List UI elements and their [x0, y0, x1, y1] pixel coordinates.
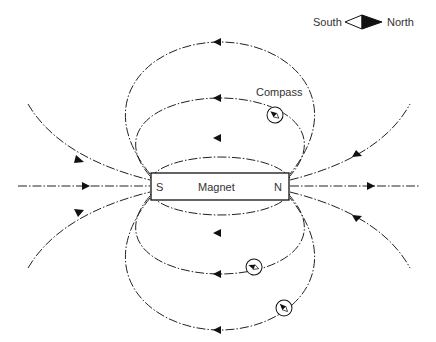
- legend: South North: [313, 15, 414, 29]
- field-line-open-lower-left: [28, 192, 150, 268]
- field-line-outer-top: [125, 42, 314, 174]
- legend-north-label: North: [387, 16, 414, 28]
- bar-magnet-field-diagram: South North S Magnet N Compass: [0, 0, 436, 342]
- field-line-open-upper-left: [28, 104, 150, 180]
- compass-bottom-icon: [273, 297, 296, 320]
- south-pole-label: S: [156, 181, 163, 193]
- legend-compass-needle-icon: [345, 15, 382, 29]
- magnet-label: Magnet: [198, 181, 235, 193]
- north-pole-label: N: [274, 181, 282, 193]
- field-line-open-upper-right: [290, 104, 410, 180]
- legend-south-label: South: [313, 16, 342, 28]
- compass-top-icon: [264, 104, 287, 127]
- field-line-open-lower-right: [290, 192, 410, 268]
- bar-magnet: S Magnet N: [151, 173, 289, 200]
- compass-middle-icon: [244, 257, 265, 278]
- compass-label: Compass: [256, 86, 303, 98]
